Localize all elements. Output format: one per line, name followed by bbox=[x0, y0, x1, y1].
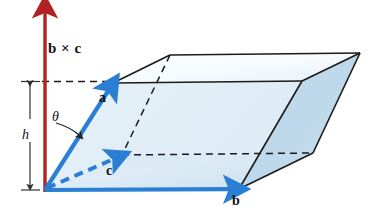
vector-b-arrow bbox=[45, 189, 233, 190]
cross-product-label: b × c bbox=[48, 41, 82, 56]
vector-b-label: b bbox=[232, 194, 240, 208]
vector-c-label: c bbox=[106, 164, 112, 178]
parallelepiped-figure: b × c a b c h θ bbox=[0, 0, 376, 216]
height-label: h bbox=[22, 128, 29, 142]
theta-angle-label: θ bbox=[52, 110, 59, 124]
figure-canvas bbox=[0, 0, 376, 216]
vector-a-label: a bbox=[99, 91, 106, 105]
theta-leader-arrow bbox=[56, 123, 80, 136]
